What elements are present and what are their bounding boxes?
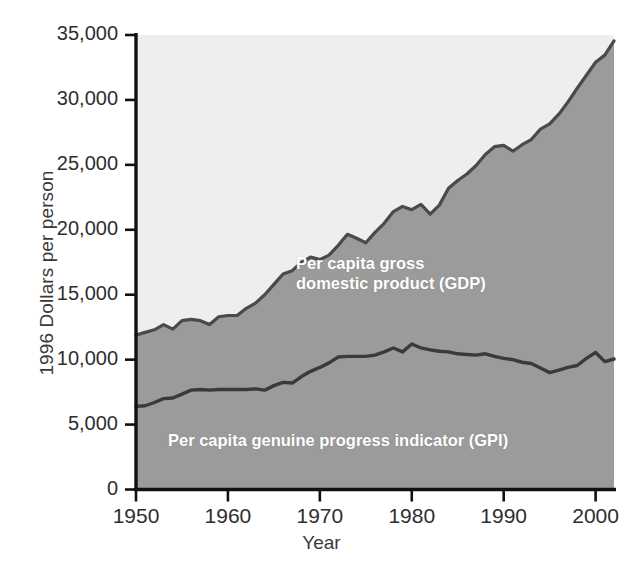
- y-tick-label: 5,000: [0, 412, 118, 435]
- y-axis-title: 1996 Dollars per person: [36, 128, 58, 418]
- x-axis-ticks: [136, 490, 596, 502]
- x-tick-label: 2000: [551, 504, 641, 528]
- x-tick-label: 1970: [275, 504, 365, 528]
- x-tick-label: 1980: [367, 504, 457, 528]
- y-tick-label: 10,000: [0, 347, 118, 370]
- chart-figure: 05,00010,00015,00020,00025,00030,00035,0…: [0, 0, 643, 575]
- y-tick-label: 20,000: [0, 217, 118, 240]
- y-tick-label: 30,000: [0, 87, 118, 110]
- y-tick-label: 25,000: [0, 152, 118, 175]
- y-tick-label: 0: [0, 477, 118, 500]
- gpi-series-annotation: Per capita genuine progress indicator (G…: [168, 430, 508, 450]
- x-tick-label: 1960: [183, 504, 273, 528]
- x-tick-label: 1990: [459, 504, 549, 528]
- y-tick-label: 15,000: [0, 282, 118, 305]
- gdp-series-annotation: Per capita gross domestic product (GDP): [296, 253, 486, 293]
- x-axis-title: Year: [0, 532, 643, 554]
- x-tick-label: 1950: [91, 504, 181, 528]
- y-tick-label: 35,000: [0, 22, 118, 45]
